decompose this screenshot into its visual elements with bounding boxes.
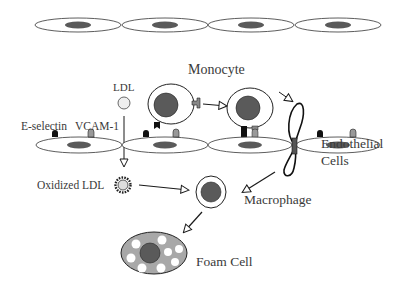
endothelial-cells-label-line1: Endothelial bbox=[321, 137, 383, 151]
ldl-particle bbox=[118, 97, 130, 109]
foam-cell bbox=[121, 232, 187, 274]
macrophage-cell bbox=[196, 176, 226, 208]
vcam1-label: VCAM-1 bbox=[75, 121, 119, 133]
diagram-canvas: LDL Monocyte E-selectin VCAM-1 Endotheli… bbox=[0, 0, 404, 296]
macrophage-label: Macrophage bbox=[244, 193, 311, 207]
top-endothelial-row bbox=[35, 18, 381, 32]
adherent-monocyte bbox=[227, 88, 273, 140]
monocyte-cell bbox=[148, 84, 200, 129]
transmigrating-monocyte bbox=[284, 103, 304, 175]
foam-cell-label: Foam Cell bbox=[196, 255, 253, 269]
oxidized-ldl-label: Oxidized LDL bbox=[37, 180, 104, 192]
e-selectin-label: E-selectin bbox=[21, 121, 67, 133]
ldl-label: LDL bbox=[113, 82, 134, 93]
endothelial-cells-label-line2: Cells bbox=[321, 154, 349, 168]
oxidized-ldl-particle bbox=[116, 178, 131, 193]
monocyte-label: Monocyte bbox=[188, 63, 245, 77]
